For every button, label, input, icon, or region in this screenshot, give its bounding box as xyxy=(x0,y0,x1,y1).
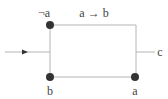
node-bottom-right xyxy=(131,73,139,81)
node-bottom-left xyxy=(46,73,54,81)
label-top-left: ¬a xyxy=(38,6,51,20)
label-output: c xyxy=(157,45,162,59)
input-arrow-icon xyxy=(22,50,28,55)
circuit-diagram: ¬a a → b b a c xyxy=(0,0,168,99)
label-bottom-right: a xyxy=(132,84,138,98)
label-top-edge: a → b xyxy=(79,6,108,20)
node-top-left xyxy=(46,21,54,29)
label-bottom-left: b xyxy=(47,84,53,98)
